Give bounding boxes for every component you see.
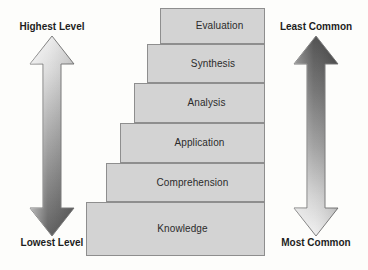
step-synthesis[interactable]: Synthesis	[147, 44, 265, 83]
step-knowledge[interactable]: Knowledge	[86, 202, 265, 256]
step-label: Analysis	[173, 98, 225, 108]
blooms-taxonomy-diagram: Highest Level Lowest Leve	[0, 0, 368, 270]
step-label: Comprehension	[143, 178, 229, 188]
step-label: Knowledge	[143, 224, 207, 234]
most-common-label: Most Common	[264, 238, 368, 248]
frequency-double-arrow-icon	[290, 34, 342, 238]
step-label: Application	[160, 138, 224, 148]
step-label: Evaluation	[182, 21, 244, 31]
step-label: Synthesis	[177, 59, 235, 69]
step-analysis[interactable]: Analysis	[134, 83, 265, 123]
step-evaluation[interactable]: Evaluation	[160, 8, 265, 44]
level-double-arrow-icon	[26, 34, 78, 238]
highest-level-label: Highest Level	[0, 22, 104, 32]
right-arrow-column: Least Common Most Common	[264, 0, 368, 270]
step-application[interactable]: Application	[120, 123, 265, 163]
step-comprehension[interactable]: Comprehension	[106, 163, 265, 202]
least-common-label: Least Common	[264, 22, 368, 32]
